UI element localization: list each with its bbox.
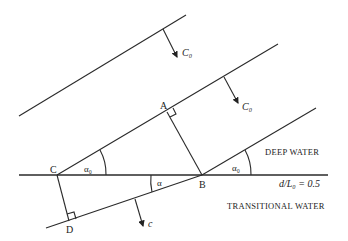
angle-label-alpha0-right: α₀: [232, 163, 240, 173]
point-label-b: B: [199, 179, 206, 190]
right-angle-a: [170, 108, 176, 117]
region-label-transitional-water: TRANSITIONAL WATER: [227, 201, 325, 211]
segment-ab: [167, 112, 202, 175]
velocity-arrow-middle: [224, 77, 238, 103]
velocity-arrow-top: [163, 29, 177, 57]
velocity-arrow-c: [135, 199, 143, 226]
velocity-label-c: c: [148, 218, 153, 229]
angle-arc-alpha0-left: [100, 150, 106, 175]
angle-label-alpha0-left: α₀: [84, 164, 92, 174]
point-label-a: A: [160, 100, 168, 111]
wave-crest-transitional: [46, 175, 202, 228]
angle-arc-alpha: [151, 175, 152, 192]
boundary-label: d/L₀ = 0.5: [279, 178, 320, 189]
point-label-d: D: [66, 224, 73, 235]
velocity-label-c0-middle: C₀: [242, 101, 253, 112]
wave-crest-deep-lower: [202, 108, 316, 175]
region-label-deep-water: DEEP WATER: [265, 147, 319, 157]
point-label-c: C: [50, 164, 57, 175]
wave-refraction-diagram: A B C D α₀ α α₀ C₀ C₀ c DEEP WATER TRANS…: [0, 0, 348, 241]
angle-label-alpha: α: [157, 178, 162, 188]
velocity-label-c0-top: C₀: [182, 47, 193, 58]
angle-arc-alpha0-right: [245, 150, 251, 175]
